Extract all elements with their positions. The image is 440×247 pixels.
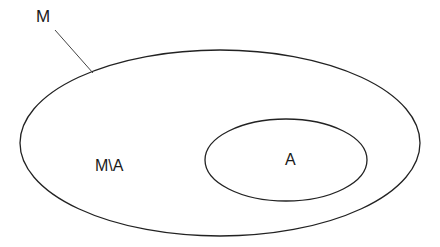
difference-region-label: M\A xyxy=(95,157,124,174)
label-leader-line xyxy=(55,30,93,73)
inner-set-label: A xyxy=(285,151,296,168)
outer-set-label: M xyxy=(36,7,50,26)
venn-diagram: M M\A A xyxy=(0,0,440,247)
